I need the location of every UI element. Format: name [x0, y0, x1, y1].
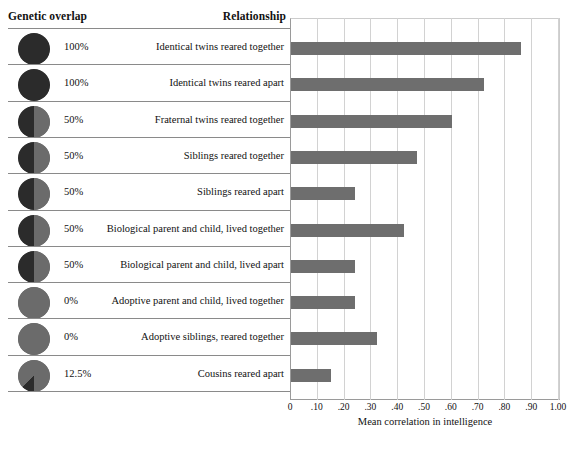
genetic-overlap-pie-icon: [18, 251, 50, 283]
x-tick-label: .50: [418, 402, 430, 412]
column-header-relationship: Relationship: [223, 10, 286, 22]
row-divider: [8, 282, 286, 283]
bar-chart: 0.10.20.30.40.50.60.70.80.901.00 Mean co…: [290, 18, 560, 400]
genetic-overlap-percent: 100%: [64, 77, 89, 88]
bar[interactable]: [291, 332, 377, 345]
pie-wedge: [18, 142, 50, 174]
relationship-label: Identical twins reared apart: [169, 77, 284, 88]
row-divider: [8, 64, 286, 65]
grid-line: [478, 18, 479, 400]
genetic-overlap-percent: 0%: [64, 295, 78, 306]
grid-line: [397, 18, 398, 400]
genetic-overlap-pie-icon: [18, 69, 50, 101]
bar[interactable]: [291, 78, 484, 91]
genetic-overlap-pie-icon: [18, 106, 50, 138]
table-row[interactable]: 100%Identical twins reared together: [8, 31, 286, 67]
x-tick-label: 1.00: [550, 402, 567, 412]
genetic-overlap-percent: 100%: [64, 41, 89, 52]
table-row[interactable]: 50%Fraternal twins reared together: [8, 104, 286, 140]
x-axis-label: Mean correlation in intelligence: [290, 416, 560, 427]
bar[interactable]: [291, 42, 521, 55]
x-tick-label: .90: [525, 402, 537, 412]
table-row[interactable]: 0%Adoptive siblings, reared together: [8, 321, 286, 357]
column-header-genetic-overlap: Genetic overlap: [8, 10, 87, 22]
genetic-overlap-pie-icon: [18, 33, 50, 65]
table-row[interactable]: 100%Identical twins reared apart: [8, 67, 286, 103]
relationship-label: Identical twins reared together: [156, 41, 284, 52]
row-divider: [8, 101, 286, 102]
pie-wedge: [18, 106, 50, 138]
genetic-overlap-pie-icon: [18, 323, 50, 355]
bar[interactable]: [291, 369, 331, 382]
y-axis-tick: [286, 28, 290, 29]
row-divider: [8, 210, 286, 211]
x-tick-label: .20: [338, 402, 350, 412]
pie-wedge: [18, 69, 50, 101]
relationship-label: Biological parent and child, lived toget…: [107, 223, 284, 234]
bar[interactable]: [291, 260, 355, 273]
row-divider: [8, 137, 286, 138]
grid-line: [504, 18, 505, 400]
genetic-overlap-pie-icon: [18, 287, 50, 319]
bar[interactable]: [291, 187, 355, 200]
grid-line: [558, 18, 559, 400]
grid-line: [451, 18, 452, 400]
table-header: Genetic overlap Relationship: [8, 10, 286, 28]
relationship-label: Biological parent and child, lived apart: [120, 259, 284, 270]
genetic-overlap-percent: 50%: [64, 150, 83, 161]
bar[interactable]: [291, 115, 452, 128]
relationship-label: Siblings reared apart: [197, 186, 284, 197]
bar[interactable]: [291, 151, 417, 164]
genetic-overlap-percent: 50%: [64, 223, 83, 234]
row-divider: [8, 355, 286, 356]
genetic-overlap-pie-icon: [18, 178, 50, 210]
row-divider: [8, 318, 286, 319]
x-tick-label: .70: [472, 402, 484, 412]
table-row[interactable]: 12.5%Cousins reared apart: [8, 358, 286, 394]
genetic-overlap-pie-icon: [18, 360, 50, 392]
row-divider: [8, 246, 286, 247]
relationship-label: Cousins reared apart: [198, 368, 284, 379]
y-axis-tick: [286, 173, 290, 174]
row-divider: [8, 28, 286, 29]
y-axis-tick: [286, 64, 290, 65]
genetic-overlap-percent: 50%: [64, 114, 83, 125]
table-row[interactable]: 50%Siblings reared apart: [8, 176, 286, 212]
relationship-label: Fraternal twins reared together: [155, 114, 284, 125]
table-row[interactable]: 50%Biological parent and child, lived ap…: [8, 249, 286, 285]
pie-wedge: [18, 251, 50, 283]
grid-line: [424, 18, 425, 400]
y-axis-tick: [286, 318, 290, 319]
relationship-label: Adoptive parent and child, lived togethe…: [111, 295, 284, 306]
genetic-overlap-percent: 0%: [64, 331, 78, 342]
y-axis-tick: [286, 101, 290, 102]
y-axis-tick: [286, 355, 290, 356]
pie-wedge: [18, 33, 50, 65]
table-row[interactable]: 50%Siblings reared together: [8, 140, 286, 176]
x-tick-label: .80: [498, 402, 510, 412]
table-row[interactable]: 0%Adoptive parent and child, lived toget…: [8, 285, 286, 321]
bar[interactable]: [291, 224, 404, 237]
x-tick-label: .30: [364, 402, 376, 412]
bar[interactable]: [291, 296, 355, 309]
table-row[interactable]: 50%Biological parent and child, lived to…: [8, 213, 286, 249]
row-divider: [8, 391, 286, 392]
genetic-overlap-pie-icon: [18, 142, 50, 174]
x-tick-label: .60: [445, 402, 457, 412]
row-divider: [8, 173, 286, 174]
x-tick-label: 0: [288, 402, 293, 412]
pie-wedge: [18, 178, 50, 210]
genetic-overlap-pie-icon: [18, 215, 50, 247]
pie-wedge: [18, 287, 50, 319]
genetic-overlap-table: Genetic overlap Relationship 100%Identic…: [0, 0, 292, 464]
y-axis-tick: [286, 246, 290, 247]
grid-line: [531, 18, 532, 400]
x-tick-label: .10: [311, 402, 323, 412]
relationship-label: Adoptive siblings, reared together: [141, 331, 284, 342]
pie-wedge: [18, 215, 50, 247]
x-tick-label: .40: [391, 402, 403, 412]
genetic-overlap-percent: 50%: [64, 186, 83, 197]
genetic-overlap-percent: 50%: [64, 259, 83, 270]
y-axis-tick: [286, 210, 290, 211]
genetic-overlap-percent: 12.5%: [64, 368, 91, 379]
